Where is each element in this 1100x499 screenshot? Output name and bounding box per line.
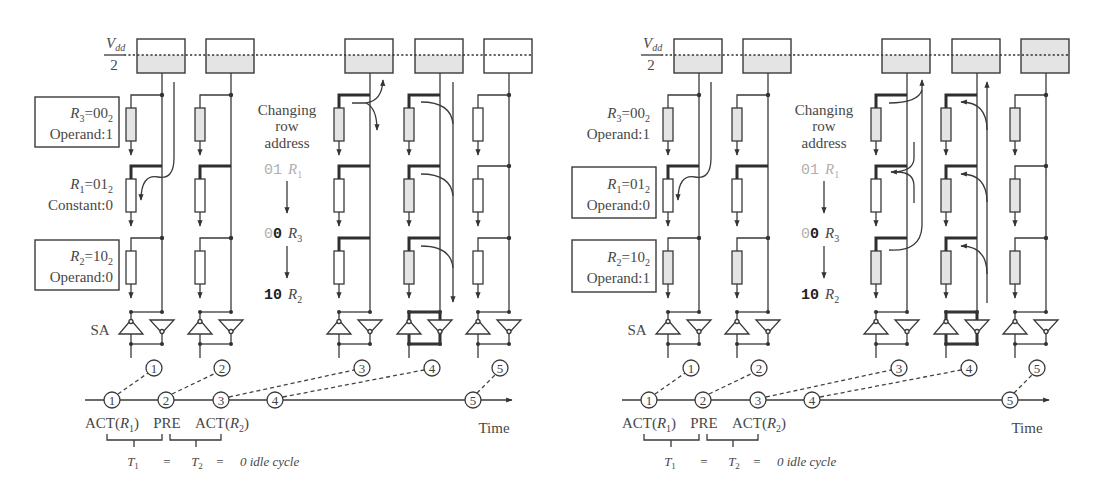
svg-text:3: 3 [755,393,762,408]
svg-text:2: 2 [756,361,763,376]
command-pre: PRE [690,415,718,431]
precharge-unit [952,39,1000,73]
svg-text:T1: T1 [664,454,676,471]
command-act-r1: ACT(R1) [622,415,676,434]
svg-text:=: = [216,454,223,469]
svg-text:Vdd: Vdd [643,35,663,53]
precharge-unit [882,39,930,73]
svg-text:01R1: 01R1 [264,161,302,180]
vdd-half-label: Vdd 2 [104,35,126,73]
precharge-unit [345,39,393,73]
idle-cycle-note: 0 idle cycle [777,454,836,469]
dram-diagram-canvas: Vdd 2 [0,0,1100,499]
svg-text:Operand:1: Operand:1 [587,270,650,286]
address-change-annotation: Changing row address 01R1 00R3 10R2 [795,102,854,305]
step-marker: 1 [683,360,699,376]
precharge-unit [674,39,722,73]
time-axis-label: Time [478,420,509,436]
svg-text:R3=002: R3=002 [69,105,113,124]
step-marker: 2 [751,360,767,376]
svg-text:Changing: Changing [258,102,317,118]
row-label-r3: R3=002 Operand:1 [50,105,113,142]
svg-text:4: 4 [272,393,279,408]
step-marker: 4 [961,360,977,376]
command-pre: PRE [153,415,181,431]
timeline-marker: 3 [213,392,229,408]
brace-t2 [707,434,758,447]
figure: Vdd 2 [0,0,1100,499]
svg-text:4: 4 [809,393,816,408]
svg-text:2: 2 [163,393,170,408]
timeline-marker: 3 [750,392,766,408]
timeline-marker: 2 [695,392,711,408]
svg-text:R2=102: R2=102 [606,249,650,268]
timeline: 1 2 3 4 5 1 2 3 4 5 ACT(R1) PRE ACT(R2) … [85,360,512,471]
sense-amp-label: SA [90,322,109,338]
svg-text:=: = [753,454,760,469]
svg-text:4: 4 [429,361,436,376]
svg-text:5: 5 [497,361,504,376]
svg-text:01R1: 01R1 [801,161,839,180]
svg-text:row: row [275,118,298,134]
svg-text:row: row [812,118,835,134]
svg-text:R1=012: R1=012 [606,176,650,195]
svg-text:2: 2 [219,361,226,376]
timeline-marker: 5 [1002,392,1018,408]
row-label-r3: R3=002 Operand:1 [587,105,650,142]
svg-text:5: 5 [1007,393,1014,408]
brace-t1 [107,434,162,447]
svg-text:3: 3 [218,393,225,408]
command-act-r2: ACT(R2) [732,415,786,434]
svg-text:address: address [265,135,310,151]
step-marker: 2 [214,360,230,376]
svg-text:R1=012: R1=012 [69,176,113,195]
precharge-unit [137,39,185,73]
panel-left: Vdd 2 [35,35,532,471]
svg-text:1: 1 [109,393,116,408]
svg-text:Operand:0: Operand:0 [587,197,650,213]
svg-text:00R3: 00R3 [801,225,839,244]
precharge-unit [1021,39,1069,73]
panel-right: Vdd 2 [572,35,1069,471]
svg-text:2: 2 [647,57,655,73]
svg-text:00R3: 00R3 [264,225,302,244]
row-label-r2: R2=102 Operand:1 [587,249,650,286]
svg-text:1: 1 [151,361,158,376]
timeline: 1 2 3 4 5 1 2 3 4 5 ACT(R1) PRE ACT(R2) … [622,360,1049,471]
svg-text:3: 3 [359,361,366,376]
svg-text:T1: T1 [127,454,139,471]
svg-text:T2: T2 [728,454,740,471]
svg-text:3: 3 [896,361,903,376]
timeline-marker: 1 [641,392,657,408]
command-act-r2: ACT(R2) [195,415,249,434]
precharge-unit [743,39,791,73]
sense-amp-label: SA [627,322,646,338]
svg-text:Constant:0: Constant:0 [48,197,113,213]
svg-text:=: = [163,454,170,469]
svg-text:2: 2 [700,393,707,408]
timeline-marker: 2 [158,392,174,408]
timeline-marker: 5 [465,392,481,408]
svg-text:10R2: 10R2 [264,286,302,305]
svg-text:1: 1 [646,393,653,408]
svg-text:=: = [700,454,707,469]
row-label-r2: R2=102 Operand:0 [50,248,113,285]
address-change-annotation: Changing row address 01R1 00R3 10R2 [258,102,317,305]
svg-text:4: 4 [966,361,973,376]
precharge-unit [415,39,463,73]
step-marker: 3 [354,360,370,376]
svg-text:2: 2 [110,57,118,73]
svg-text:5: 5 [470,393,477,408]
svg-text:Operand:1: Operand:1 [587,126,650,142]
svg-text:R3=002: R3=002 [606,105,650,124]
timeline-marker: 4 [267,392,283,408]
vdd-half-label: Vdd 2 [641,35,663,73]
svg-text:Operand:0: Operand:0 [50,269,113,285]
brace-t2 [170,434,221,447]
time-axis-label: Time [1011,420,1042,436]
precharge-unit [206,39,254,73]
svg-text:T2: T2 [191,454,203,471]
svg-text:R2=102: R2=102 [69,248,113,267]
row-label-r1: R1=012 Constant:0 [48,176,113,213]
svg-text:1: 1 [688,361,695,376]
